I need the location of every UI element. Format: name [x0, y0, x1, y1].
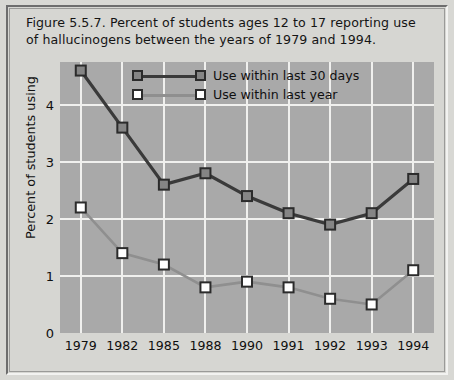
data-point-marker: [159, 180, 169, 190]
x-axis-tick-label: 1990: [231, 338, 263, 353]
x-axis-tick-label: 1979: [65, 338, 97, 353]
legend-marker: [195, 89, 206, 100]
legend-swatch: [132, 69, 206, 83]
y-axis-tick-label: 0: [32, 326, 54, 341]
legend-label: Use within last year: [213, 87, 338, 102]
data-point-marker: [408, 174, 418, 184]
data-point-marker: [200, 168, 210, 178]
legend-marker: [132, 89, 143, 100]
data-point-marker: [325, 294, 335, 304]
legend-item[interactable]: Use within last 30 days: [132, 66, 359, 85]
data-point-marker: [76, 202, 86, 212]
x-axis-tick-label: 1993: [356, 338, 388, 353]
data-point-marker: [367, 208, 377, 218]
chart-plot-area: Use within last 30 daysUse within last y…: [60, 62, 434, 333]
y-axis-title: Percent of students using: [23, 48, 38, 268]
data-point-marker: [242, 191, 252, 201]
legend-swatch: [132, 88, 206, 102]
data-point-marker: [325, 220, 335, 230]
legend-line: [138, 94, 200, 97]
x-axis-tick-label: 1991: [273, 338, 305, 353]
y-axis-tick-label: 1: [32, 268, 54, 283]
series-line: [81, 207, 413, 304]
legend-line: [138, 75, 200, 78]
x-axis-tick-labels: 197919821985198819901991199219931994: [60, 338, 434, 358]
legend-marker: [132, 70, 143, 81]
x-axis-tick-label: 1994: [397, 338, 429, 353]
x-axis-tick-label: 1985: [148, 338, 180, 353]
x-axis-tick-label: 1992: [314, 338, 346, 353]
x-axis-tick-label: 1982: [106, 338, 138, 353]
data-point-marker: [159, 260, 169, 270]
data-point-marker: [408, 265, 418, 275]
data-point-marker: [284, 282, 294, 292]
data-point-marker: [117, 123, 127, 133]
data-point-marker: [242, 277, 252, 287]
data-point-marker: [367, 299, 377, 309]
data-point-marker: [200, 282, 210, 292]
data-point-marker: [117, 248, 127, 258]
legend-marker: [195, 70, 206, 81]
x-axis-tick-label: 1988: [189, 338, 221, 353]
figure-container: Figure 5.5.7. Percent of students ages 1…: [0, 0, 454, 380]
legend-item[interactable]: Use within last year: [132, 85, 359, 104]
data-point-marker: [284, 208, 294, 218]
chart-legend: Use within last 30 daysUse within last y…: [132, 66, 359, 104]
figure-caption: Figure 5.5.7. Percent of students ages 1…: [26, 14, 422, 48]
data-point-marker: [76, 66, 86, 76]
legend-label: Use within last 30 days: [213, 68, 359, 83]
